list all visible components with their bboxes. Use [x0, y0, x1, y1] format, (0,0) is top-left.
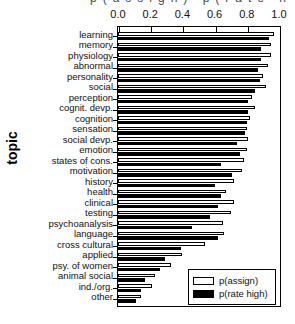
legend-label-p-assign: p(assign): [219, 275, 258, 286]
bar-p-rate-high: [118, 299, 136, 303]
x-tick-mark: [248, 27, 249, 32]
category-label: animal social: [0, 271, 113, 281]
bar-p-rate-high: [118, 194, 221, 198]
bar-p-assign: [118, 95, 252, 99]
bar-p-rate-high: [118, 100, 248, 104]
bar-p-assign: [118, 179, 234, 183]
legend-swatch-p-assign: [193, 277, 214, 285]
bar-p-rate-high: [118, 184, 215, 188]
bar-p-assign: [118, 232, 224, 236]
bar-p-rate-high: [118, 47, 261, 51]
legend-swatch-p-rate-high: [193, 290, 214, 298]
bar-p-rate-high: [118, 215, 210, 219]
bar-p-assign: [118, 106, 255, 110]
cropped-title-strip: p(assign) p(rate high): [90, 0, 290, 5]
bar-p-assign: [118, 32, 274, 36]
category-label: testing: [0, 208, 113, 218]
cropped-title-fragment: p(assign) p(rate high): [90, 0, 290, 5]
bar-p-rate-high: [118, 247, 181, 251]
bar-p-assign: [118, 242, 205, 246]
category-label: psychoanalysis: [0, 219, 113, 229]
bar-p-assign: [118, 85, 266, 89]
bar-p-rate-high: [118, 257, 165, 261]
category-label: physiology: [0, 51, 113, 61]
bar-p-assign: [118, 221, 223, 225]
x-tick-label: 1.0: [271, 8, 286, 20]
category-label: psy. of women: [0, 261, 113, 271]
bar-p-assign: [118, 64, 268, 68]
category-label: cognit. devp.: [0, 103, 113, 113]
bar-p-rate-high: [118, 142, 237, 146]
category-label: learning: [0, 30, 113, 40]
x-tick-mark: [280, 27, 281, 32]
legend-label-p-rate-high: p(rate high): [219, 288, 268, 299]
category-label: emotion: [0, 145, 113, 155]
bar-p-assign: [118, 169, 242, 173]
bar-p-assign: [118, 284, 152, 288]
bar-p-rate-high: [118, 68, 258, 72]
bar-p-assign: [118, 253, 182, 257]
category-label: motivation: [0, 166, 113, 176]
x-axis-tick-labels: 0.00.20.40.60.81.0: [0, 8, 295, 22]
category-label: sensation: [0, 124, 113, 134]
bar-p-rate-high: [118, 58, 261, 62]
category-label: applied: [0, 250, 113, 260]
legend-item: p(assign): [193, 274, 271, 287]
bar-p-rate-high: [118, 89, 255, 93]
category-label: personality: [0, 72, 113, 82]
bar-p-rate-high: [118, 110, 248, 114]
category-label: clinical: [0, 198, 113, 208]
legend: p(assign) p(rate high): [188, 269, 276, 305]
category-label: memory: [0, 40, 113, 50]
bar-p-assign: [118, 158, 244, 162]
bar-p-rate-high: [118, 205, 218, 209]
category-label: language: [0, 229, 113, 239]
bar-p-assign: [118, 263, 171, 267]
category-label: states of cons.: [0, 156, 113, 166]
bar-p-assign: [118, 190, 226, 194]
bar-p-rate-high: [118, 79, 260, 83]
bar-p-assign: [118, 148, 247, 152]
category-label: cross cultural: [0, 240, 113, 250]
bar-p-assign: [118, 295, 141, 299]
category-label: social: [0, 82, 113, 92]
x-tick-mark: [183, 27, 184, 32]
category-label: abnormal: [0, 61, 113, 71]
category-label: perception: [0, 93, 113, 103]
x-tick-mark: [119, 27, 120, 32]
x-tick-label: 0.8: [239, 8, 254, 20]
bar-p-assign: [118, 53, 271, 57]
category-label: ind./org.: [0, 282, 113, 292]
x-tick-label: 0.6: [207, 8, 222, 20]
bar-p-assign: [118, 74, 263, 78]
category-label: cognition: [0, 114, 113, 124]
category-label: social devp.: [0, 135, 113, 145]
bar-p-assign: [118, 43, 271, 47]
x-tick-label: 0.4: [175, 8, 190, 20]
bar-p-rate-high: [118, 163, 221, 167]
bar-p-rate-high: [118, 289, 141, 293]
bar-p-rate-high: [118, 121, 247, 125]
category-labels: learningmemoryphysiologyabnormalpersonal…: [0, 26, 113, 307]
category-label: other: [0, 292, 113, 302]
x-tick-label: 0.2: [143, 8, 158, 20]
x-tick-mark: [216, 27, 217, 32]
bar-p-assign: [118, 211, 231, 215]
bar-p-rate-high: [118, 131, 245, 135]
bar-p-assign: [118, 274, 155, 278]
legend-item: p(rate high): [193, 287, 271, 300]
category-label: history: [0, 177, 113, 187]
bar-p-rate-high: [118, 236, 218, 240]
plot-area: p(assign) p(rate high): [117, 26, 281, 307]
bar-chart: p(assign) p(rate high) 0.00.20.40.60.81.…: [0, 0, 295, 324]
category-label: health: [0, 187, 113, 197]
bar-p-rate-high: [118, 278, 145, 282]
bar-p-rate-high: [118, 268, 160, 272]
bar-p-assign: [118, 200, 234, 204]
bar-p-rate-high: [118, 173, 232, 177]
bar-p-rate-high: [118, 152, 240, 156]
bar-p-assign: [118, 137, 248, 141]
bar-p-rate-high: [118, 226, 192, 230]
bar-p-assign: [118, 127, 247, 131]
bar-p-rate-high: [118, 37, 269, 41]
